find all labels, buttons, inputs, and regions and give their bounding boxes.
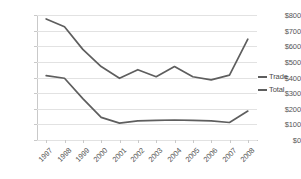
chart-title-strip (0, 0, 301, 7)
y-axis-tick-label: $500 (268, 57, 301, 66)
y-axis-tick-label: $100 (268, 120, 301, 129)
line-chart: $800$700$600$500$400$300$200$100$0 19971… (0, 0, 301, 179)
legend-item[interactable]: Total (258, 83, 301, 96)
series-layer (37, 15, 258, 141)
y-axis-tick-label: $700 (268, 26, 301, 35)
legend-swatch-icon (258, 89, 267, 91)
y-axis-tick-label: $0 (268, 136, 301, 145)
legend-label: Total (269, 85, 284, 94)
y-axis-tick-label: $800 (268, 11, 301, 20)
chart-legend: TradeTotal (258, 70, 301, 96)
y-axis-tick-label: $600 (268, 42, 301, 51)
series-line-total (46, 76, 248, 123)
legend-item[interactable]: Trade (258, 70, 301, 83)
legend-swatch-icon (258, 76, 267, 78)
legend-label: Trade (269, 72, 288, 81)
series-line-trade (46, 19, 248, 80)
y-axis-tick-label: $200 (268, 104, 301, 113)
